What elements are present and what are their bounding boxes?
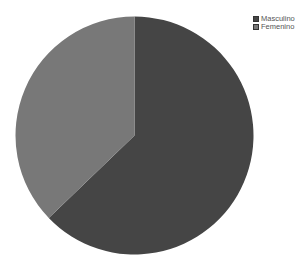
legend-swatch-femenino [253,24,259,30]
legend-label-femenino: Femenino [261,23,294,31]
legend-swatch-masculino [253,16,259,22]
pie-chart [0,0,306,267]
legend-item-femenino: Femenino [253,23,295,31]
chart-legend: Masculino Femenino [253,15,295,31]
